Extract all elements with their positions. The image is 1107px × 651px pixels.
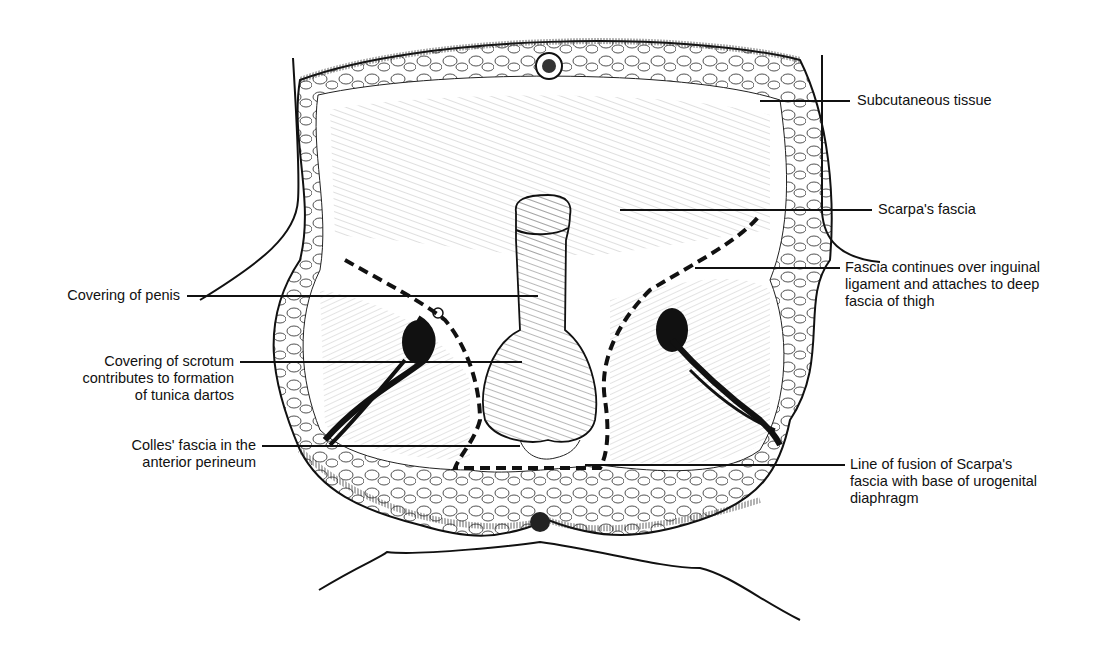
label-subcutaneous-tissue: Subcutaneous tissue [857, 92, 992, 109]
label-colles-fascia: Colles' fascia in the anterior perineum [132, 437, 256, 471]
label-line-of-fusion: Line of fusion of Scarpa's fascia with b… [850, 456, 1037, 507]
umbilicus [536, 53, 562, 79]
label-fascia-continues: Fascia continues over inguinal ligament … [845, 259, 1040, 310]
label-covering-of-scrotum: Covering of scrotum contributes to forma… [82, 353, 234, 404]
anus [530, 512, 550, 532]
label-scarpas-fascia: Scarpa's fascia [878, 201, 976, 218]
label-covering-of-penis: Covering of penis [67, 287, 180, 304]
